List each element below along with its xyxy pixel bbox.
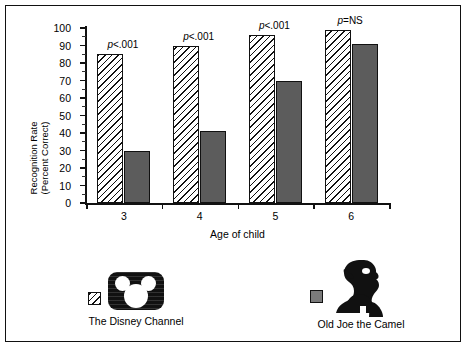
old-joe-camel-logo: [330, 258, 392, 320]
y-tick-label-70: 70: [0, 75, 71, 86]
bar-disney-age-6: [325, 30, 351, 203]
x-axis-label: Age of child: [86, 228, 389, 240]
figure-container: Recognition Rate(Percent Correct) 010203…: [0, 0, 468, 349]
mickey-head-icon: [124, 284, 148, 308]
disney-channel-logo: [108, 272, 164, 310]
legend-swatch-disney: [88, 292, 101, 305]
bar-camel-age-5: [276, 81, 302, 204]
y-tick-label-100: 100: [0, 23, 71, 34]
p-value-label-age-5: p<.001: [259, 20, 290, 31]
bar-disney-age-3: [97, 54, 123, 203]
bar-camel-age-4: [200, 131, 226, 203]
p-value-label-age-4: p<.001: [183, 31, 214, 42]
legend-label-camel: Old Joe the Camel: [318, 318, 405, 330]
y-tick-label-10: 10: [0, 180, 71, 191]
y-tick-label-80: 80: [0, 58, 71, 69]
y-tick-label-50: 50: [0, 110, 71, 121]
y-tick-label-40: 40: [0, 128, 71, 139]
x-tick-label-age-6: 6: [348, 210, 354, 222]
bar-group-age-3: p<.001: [86, 28, 162, 203]
plot-area: p<.001p<.001p<.001p=NS: [86, 28, 389, 203]
y-tick-label-60: 60: [0, 93, 71, 104]
x-tick-label-age-4: 4: [197, 210, 203, 222]
x-tick-age-4: [162, 203, 164, 209]
legend-swatch-camel: [310, 290, 323, 303]
y-tick-label-30: 30: [0, 145, 71, 156]
x-tick-end: [389, 203, 391, 209]
bar-camel-age-6: [352, 44, 378, 203]
x-tick-age-3: [86, 203, 88, 209]
x-tick-label-age-3: 3: [121, 210, 127, 222]
bar-camel-age-3: [124, 151, 150, 204]
bar-group-age-6: p=NS: [313, 28, 389, 203]
x-tick-age-6: [313, 203, 315, 209]
y-tick-label-20: 20: [0, 163, 71, 174]
legend-label-disney: The Disney Channel: [88, 315, 183, 327]
x-tick-label-age-5: 5: [272, 210, 278, 222]
p-value-label-age-6: p=NS: [337, 15, 362, 26]
bar-group-age-4: p<.001: [162, 28, 238, 203]
bar-disney-age-5: [249, 35, 275, 203]
bar-group-age-5: p<.001: [238, 28, 314, 203]
p-value-label-age-3: p<.001: [107, 39, 138, 50]
y-tick-label-90: 90: [0, 40, 71, 51]
bar-disney-age-4: [173, 46, 199, 204]
y-tick-label-0: 0: [0, 198, 71, 209]
x-tick-age-5: [238, 203, 240, 209]
